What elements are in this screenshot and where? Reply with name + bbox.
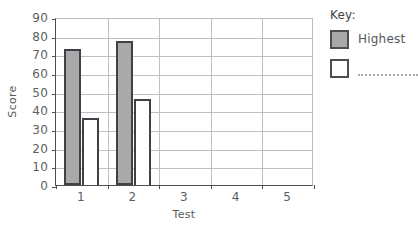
x-tickmark: [56, 185, 57, 189]
x-tickmark: [159, 185, 160, 189]
key-entry: [330, 57, 418, 79]
bar: [134, 99, 151, 185]
y-axis-title: Score: [6, 74, 19, 130]
y-axis-tick-labels: 9080706050403020100: [20, 18, 48, 186]
x-tick-label: 5: [272, 190, 302, 204]
key-blank-line[interactable]: [358, 64, 418, 76]
x-tick-label: 1: [66, 190, 96, 204]
x-tick-label: 3: [169, 190, 199, 204]
bar-chart-worksheet: Score 9080706050403020100 12345 Test Key…: [0, 0, 418, 227]
y-tick-label: 0: [20, 180, 48, 192]
bar: [82, 118, 99, 185]
y-tick-label: 20: [20, 143, 48, 155]
x-tickmark: [262, 185, 263, 189]
plot-area: [55, 18, 313, 186]
y-tick-label: 50: [20, 87, 48, 99]
y-tick-label: 70: [20, 49, 48, 61]
x-tick-label: 2: [117, 190, 147, 204]
x-tick-label: 4: [221, 190, 251, 204]
y-tick-label: 40: [20, 105, 48, 117]
key-swatch: [330, 59, 349, 78]
key-entries: Highest: [330, 28, 418, 79]
key-label: Highest: [358, 32, 405, 46]
y-tick-label: 30: [20, 124, 48, 136]
x-tickmark: [211, 185, 212, 189]
y-tick-label: 80: [20, 31, 48, 43]
key-swatch: [330, 30, 349, 49]
y-tick-label: 60: [20, 68, 48, 80]
y-tick-label: 10: [20, 161, 48, 173]
bar: [64, 49, 81, 185]
bar: [116, 41, 133, 185]
x-tickmark: [314, 185, 315, 189]
x-tickmark: [108, 185, 109, 189]
x-axis-title: Test: [55, 208, 313, 221]
key-entry: Highest: [330, 28, 418, 50]
chart-key: Key: Highest: [330, 8, 418, 86]
key-title: Key:: [330, 8, 418, 22]
y-tick-label: 90: [20, 12, 48, 24]
x-axis-tick-labels: 12345: [55, 190, 313, 208]
bars-layer: [56, 19, 312, 185]
